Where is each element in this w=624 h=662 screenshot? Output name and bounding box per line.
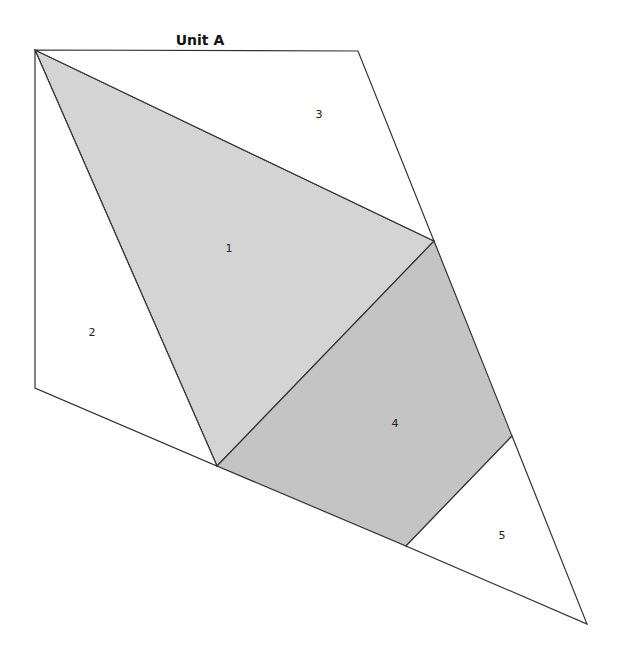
piece-label-4: 4 (392, 417, 399, 430)
piece-label-5: 5 (499, 529, 506, 542)
piece-label-3: 3 (316, 108, 323, 121)
piece-label-1: 1 (226, 242, 233, 255)
quilt-unit-diagram: 12345 (0, 0, 624, 662)
piece-label-2: 2 (89, 326, 96, 339)
